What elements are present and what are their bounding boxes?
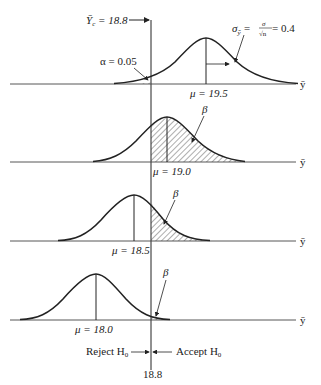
standard-error-label: σȳ = σ √n = 0.4 — [232, 20, 295, 62]
panel-mu-18-5: μ = 18.5 β ȳ — [10, 187, 306, 256]
panel-mu-18-0: μ = 18.0 β ȳ — [10, 266, 306, 335]
axis-label: ȳ — [300, 78, 306, 90]
beta-label: β — [201, 103, 208, 115]
axis-label: ȳ — [300, 235, 306, 247]
power-diagram: Ȳc = 18.8 σȳ = σ √n = 0.4 μ = 19.5 α = 0… — [0, 0, 321, 385]
reject-label: Reject H0 — [86, 345, 129, 359]
svg-text:Ȳc = 18.8: Ȳc = 18.8 — [86, 14, 128, 28]
mu-label: μ = 18.0 — [74, 323, 113, 335]
accept-label: Accept H0 — [176, 345, 222, 359]
mu-label: μ = 19.0 — [152, 165, 191, 177]
decision-labels: Reject H0 Accept H0 18.8 — [86, 345, 222, 380]
svg-text:σ: σ — [262, 20, 266, 28]
alpha-label: α = 0.05 — [100, 55, 137, 67]
axis-label: ȳ — [300, 156, 306, 168]
axis-label: ȳ — [300, 314, 306, 326]
beta-label: β — [172, 187, 179, 199]
panel-mu-19-5: μ = 19.5 α = 0.05 ȳ — [10, 38, 306, 99]
critical-value-tick-label: 18.8 — [143, 368, 163, 380]
svg-text:√n: √n — [259, 30, 267, 38]
panel-mu-19-0: μ = 19.0 β ȳ — [10, 103, 306, 177]
mu-label: μ = 18.5 — [111, 244, 150, 256]
beta-label: β — [162, 266, 169, 278]
distribution-curve — [20, 274, 170, 320]
mu-label: μ = 19.5 — [189, 87, 228, 99]
svg-text:σȳ =: σȳ = — [232, 22, 251, 37]
svg-text:= 0.4: = 0.4 — [272, 22, 295, 34]
critical-value-label: Ȳc = 18.8 — [86, 14, 149, 28]
